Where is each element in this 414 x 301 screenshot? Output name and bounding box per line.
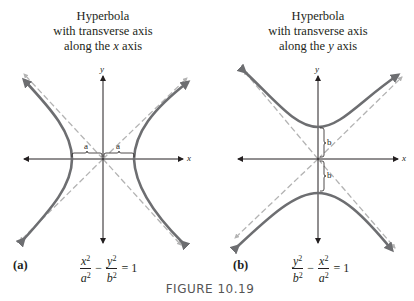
panel-a-graph [20,74,188,245]
brace-label-b-lower: b [327,170,332,180]
fraction-b-1: y2 b2 [292,252,303,285]
figure-title: FIGURE 10.19 [150,282,270,296]
x-axis-label-b: x [402,153,406,163]
brace-b-lower [320,161,326,191]
panel-label-a: (a) [13,258,28,273]
panel-label-b: (b) [233,258,248,273]
brace-label-a-right: a [116,141,120,151]
equation-a: x2 a2 − y2 b2 = 1 [80,252,139,285]
brace-label-a-left: a [84,141,88,151]
asymptote-b-3 [235,159,318,238]
brace-label-b-upper: b [327,137,332,147]
asymptote-a-1 [24,74,103,159]
hyperbola-a-right-branch [134,82,188,242]
fraction-b-2: x2 a2 [318,252,329,285]
asymptote-b-1 [244,71,318,159]
y-axis-label-a: y [100,64,104,74]
hyperbola-b-lower-branch [238,193,392,250]
x-axis-label-a: x [187,153,191,163]
fraction-a-1: x2 a2 [80,252,91,285]
asymptote-a-4 [103,159,181,245]
panel-b-graph [235,71,402,250]
equation-b: y2 b2 − x2 a2 = 1 [292,252,351,285]
brace-a-left [72,151,102,157]
brace-a-right [104,151,134,157]
hyperbola-diagrams [0,0,414,301]
fraction-a-2: y2 b2 [106,252,117,285]
y-axis-label-b: y [315,64,319,74]
